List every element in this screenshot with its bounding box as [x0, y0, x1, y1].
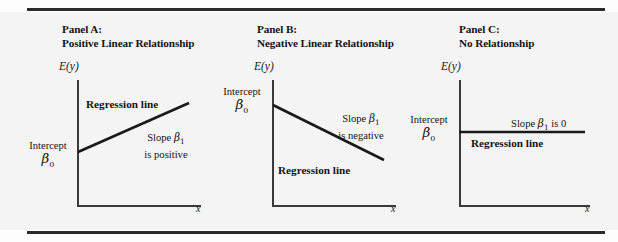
panel-b-y-axis-label: E(y): [254, 60, 274, 72]
panel-b-slope-symbol: β1: [369, 112, 380, 124]
panel-c-y-axis-label: E(y): [441, 60, 461, 72]
panel-a-intercept-symbol: β0: [20, 152, 76, 171]
panel-b-x-axis: [272, 205, 396, 207]
panel-c-y-axis: [459, 80, 461, 206]
panel-a-intercept-annotation: Intercept β0: [20, 140, 76, 171]
panel-a-slope-prefix: Slope: [147, 132, 174, 143]
panel-c-intercept-annotation: Intercept β0: [401, 114, 457, 145]
panel-c: Panel C: No Relationship E(y) x Intercep…: [395, 0, 618, 242]
panel-b: Panel B: Negative Linear Relationship E(…: [205, 0, 410, 242]
panel-c-intercept-symbol: β0: [401, 126, 457, 145]
panel-b-slope-prefix: Slope: [342, 113, 369, 124]
panel-c-x-axis: [459, 205, 590, 207]
panel-b-slope-desc: is negative: [338, 130, 384, 141]
panel-c-x-axis-label: x: [585, 203, 589, 214]
panel-a-title: Panel A: Positive Linear Relationship: [62, 22, 195, 50]
panel-c-title: Panel C: No Relationship: [459, 22, 534, 50]
panel-a-title-line1: Panel A:: [62, 23, 102, 35]
panel-a-slope-symbol: β1: [174, 131, 185, 143]
panel-a-y-axis-label: E(y): [59, 60, 79, 72]
panel-c-slope-symbol: β1: [538, 117, 549, 129]
panel-c-slope-prefix: Slope: [511, 118, 538, 129]
panel-b-intercept-annotation: Intercept β0: [214, 86, 270, 117]
panel-a-slope-annotation: Slope β1 is positive: [131, 131, 201, 161]
regression-relationship-figure: Panel A: Positive Linear Relationship E(…: [0, 0, 618, 242]
panel-c-slope-annotation: Slope β1 is 0: [511, 117, 566, 135]
panel-c-regression-line-label: Regression line: [471, 137, 543, 150]
panel-a-regression-line-label: Regression line: [86, 98, 158, 111]
panel-a-title-line2: Positive Linear Relationship: [62, 37, 195, 49]
panel-c-slope-desc: is 0: [549, 118, 567, 129]
panel-c-title-line1: Panel C:: [459, 23, 500, 35]
panel-c-title-line2: No Relationship: [459, 37, 534, 49]
panel-b-title-line1: Panel B:: [257, 23, 297, 35]
panel-b-slope-annotation: Slope β1 is negative: [323, 112, 399, 142]
panel-a-x-axis: [77, 205, 201, 207]
panel-b-intercept-symbol: β0: [214, 98, 270, 117]
panel-b-regression-line-label: Regression line: [278, 164, 350, 177]
panel-b-title-line2: Negative Linear Relationship: [257, 37, 394, 49]
panel-a-x-axis-label: x: [196, 203, 200, 214]
panel-a-slope-desc: is positive: [144, 149, 187, 160]
panel-b-y-axis: [272, 80, 274, 206]
panel-b-title: Panel B: Negative Linear Relationship: [257, 22, 394, 50]
panel-a: Panel A: Positive Linear Relationship E(…: [0, 0, 210, 242]
panel-a-y-axis: [77, 80, 79, 206]
